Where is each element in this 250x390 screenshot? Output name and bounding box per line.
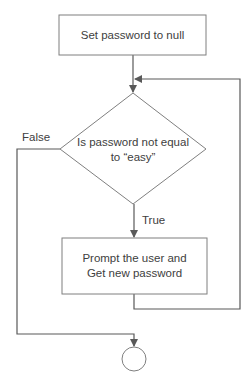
node-prompt-label-line1: Prompt the user and: [82, 252, 186, 264]
edge-label-false: False: [22, 131, 50, 143]
node-prompt-user: Prompt the user and Get new password: [62, 238, 207, 294]
node-prompt-label-line2: Get new password: [87, 267, 182, 279]
flowchart: Set password to null Is password not equ…: [0, 0, 250, 390]
node-end-connector: [122, 347, 146, 371]
node-check-label-line2: to “easy”: [111, 151, 156, 163]
node-set-password-null: Set password to null: [59, 15, 206, 55]
node-decision-password-check: Is password not equal to “easy”: [60, 93, 206, 204]
node-init-label: Set password to null: [81, 29, 185, 41]
edge-label-true: True: [142, 214, 165, 226]
node-check-label-line1: Is password not equal: [77, 136, 189, 148]
